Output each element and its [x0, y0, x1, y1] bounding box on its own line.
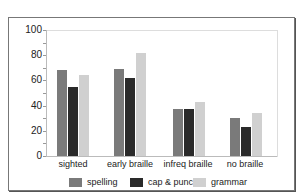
y-tick-mark [43, 43, 46, 44]
y-tick-label: 80 [20, 50, 42, 60]
y-tick-mark [43, 55, 46, 56]
bar-grammar [195, 102, 205, 156]
bar-grammar [136, 53, 146, 156]
y-tick-label: 60 [20, 75, 42, 85]
y-tick-label: 40 [20, 101, 42, 111]
bar-cap-punc [68, 87, 78, 156]
legend-label: spelling [87, 177, 118, 187]
x-axis [46, 156, 277, 157]
legend-item-grammar: grammar [193, 177, 247, 187]
legend-swatch [193, 178, 206, 187]
legend-label: grammar [211, 177, 247, 187]
legend-swatch [69, 178, 82, 187]
y-tick-label: 100 [20, 25, 42, 35]
legend-item-cap-punc: cap & punc [130, 177, 193, 187]
y-axis [46, 30, 47, 156]
y-tick-mark [43, 143, 46, 144]
x-tick-label: sighted [43, 159, 103, 169]
legend-label: cap & punc [148, 177, 193, 187]
y-tick-label: 0 [20, 151, 42, 161]
y-tick-label: 20 [20, 126, 42, 136]
bar-spelling [57, 70, 67, 156]
y-tick-mark [43, 68, 46, 69]
x-tick-label: no braille [215, 159, 275, 169]
bar-grammar [252, 113, 262, 156]
x-tick-label: early braille [100, 159, 160, 169]
x-tick-label: infreq braille [158, 159, 218, 169]
bar-spelling [230, 118, 240, 156]
y-tick-mark [43, 80, 46, 81]
bar-cap-punc [125, 78, 135, 156]
y-tick-mark [43, 156, 46, 157]
bar-cap-punc [241, 127, 251, 156]
y-tick-mark [43, 30, 46, 31]
legend: spelling cap & punc grammar [0, 177, 301, 189]
bar-cap-punc [184, 109, 194, 156]
bar-grammar [79, 75, 89, 156]
y-tick-mark [43, 131, 46, 132]
y-tick-mark [43, 93, 46, 94]
legend-item-spelling: spelling [69, 177, 118, 187]
bar-spelling [114, 69, 124, 156]
y-tick-mark [43, 106, 46, 107]
legend-swatch [130, 178, 143, 187]
bar-spelling [173, 109, 183, 156]
y-tick-mark [43, 118, 46, 119]
